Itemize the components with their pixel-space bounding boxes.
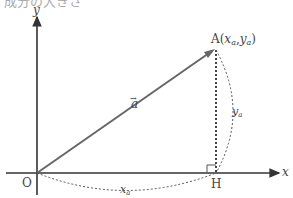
brace-y-a: [216, 50, 233, 173]
vector-arrowhead: [204, 49, 215, 58]
brace-y-a-label: ya: [231, 105, 242, 119]
x-axis-label: x: [282, 165, 289, 179]
right-angle-marker: [207, 165, 216, 173]
origin-label: O: [22, 176, 32, 190]
vector-component-diagram: y x O H → a A(xa,ya) xa ya: [0, 0, 293, 198]
vector-a-line: [37, 51, 212, 173]
point-h-label: H: [211, 177, 221, 191]
y-axis-label: y: [32, 3, 40, 17]
vector-a-label: a: [131, 97, 138, 111]
point-a-label: A(xa,ya): [210, 32, 256, 47]
brace-x-a-label: xa: [120, 183, 130, 197]
brace-x-a: [37, 173, 216, 191]
